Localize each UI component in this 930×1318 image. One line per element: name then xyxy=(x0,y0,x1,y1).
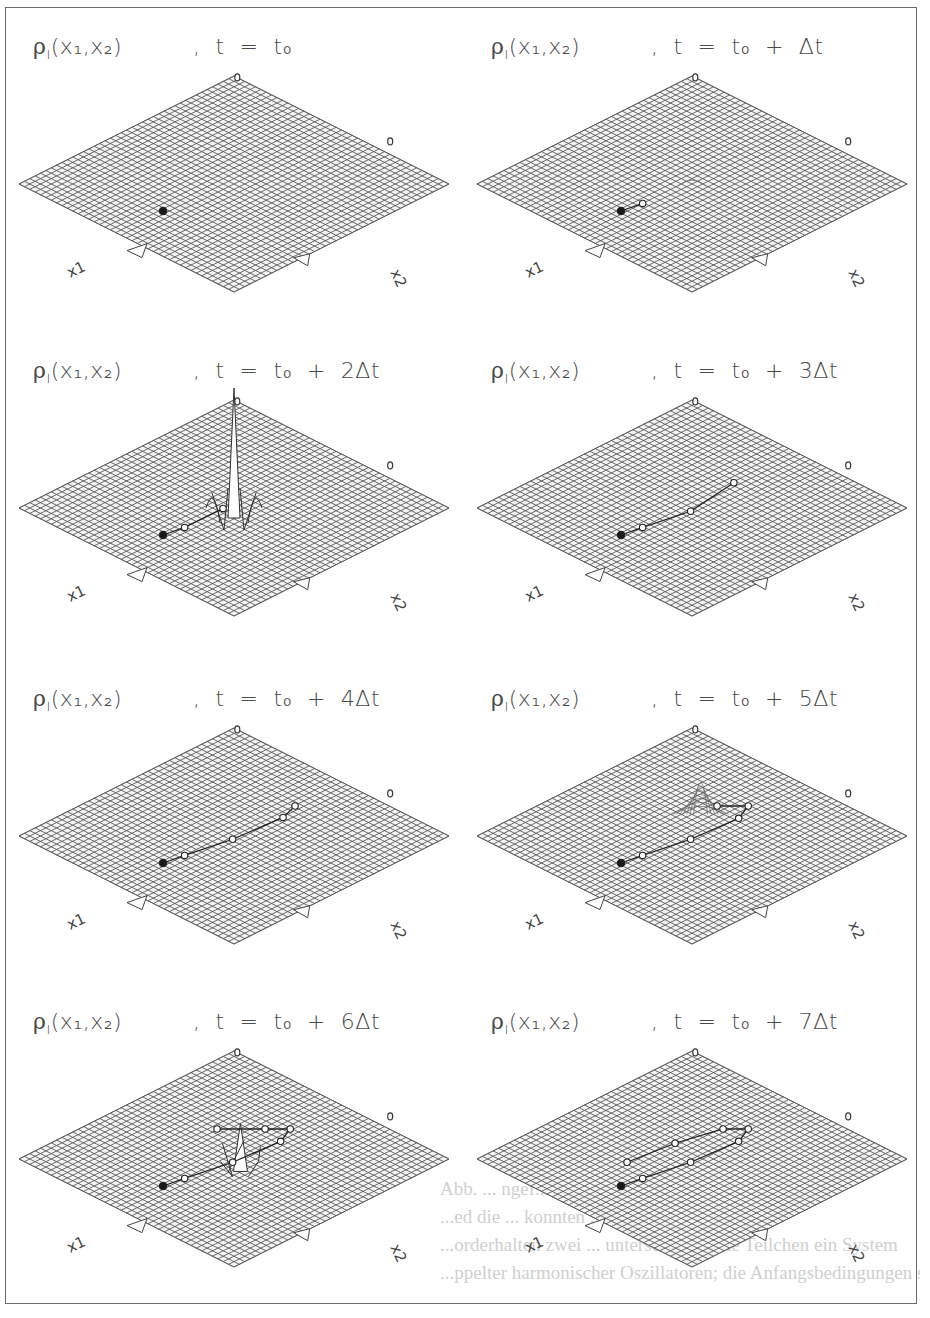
plot-panel-step-5: ρI(x₁,x₂), t = t₀ + 5Δtx1x2 xyxy=(466,662,928,984)
trajectory-point-marker xyxy=(687,1159,693,1165)
x1-axis-arrow-icon xyxy=(585,568,605,582)
trajectory-point-marker xyxy=(181,1175,187,1181)
x2-axis-label: x2 xyxy=(844,1241,868,1265)
plot-panel-step-6: ρI(x₁,x₂), t = t₀ + 6Δtx1x2 xyxy=(8,985,470,1307)
trajectory-point-marker xyxy=(745,1126,751,1132)
plot-panel-step-3: ρI(x₁,x₂), t = t₀ + 3Δtx1x2 xyxy=(466,334,928,656)
figure: Abb. ... ngef... nar... nd ... ohne... d… xyxy=(0,0,930,1318)
start-point-marker xyxy=(159,531,167,539)
start-point-marker xyxy=(617,207,625,215)
surface-plot: x1x2 xyxy=(8,985,470,1307)
trajectory-point-marker xyxy=(720,1126,726,1132)
plot-panel-step-4: ρI(x₁,x₂), t = t₀ + 4Δtx1x2 xyxy=(8,662,470,984)
plot-panel-step-7: ρI(x₁,x₂), t = t₀ + 7Δtx1x2 xyxy=(466,985,928,1307)
trajectory-point-marker xyxy=(262,1126,268,1132)
trajectory-point-marker xyxy=(735,815,741,821)
trajectory-point-marker xyxy=(639,852,645,858)
x2-axis-label: x2 xyxy=(844,590,868,614)
trajectory-point-marker xyxy=(687,508,693,514)
x1-axis-arrow-icon xyxy=(127,568,147,582)
surface-plot: x1x2 xyxy=(466,662,928,984)
x2-axis-label: x2 xyxy=(386,590,410,614)
start-point-marker xyxy=(159,1182,167,1190)
x1-axis-label: x1 xyxy=(64,910,88,934)
trajectory-point-marker xyxy=(639,524,645,530)
trajectory-point-marker xyxy=(292,803,298,809)
surface-plot: x1x2 xyxy=(8,662,470,984)
x1-axis-label: x1 xyxy=(522,258,546,282)
x1-axis-label: x1 xyxy=(522,582,546,606)
surface-plot: x1x2 xyxy=(8,334,470,656)
x2-axis-label: x2 xyxy=(386,266,410,290)
start-point-marker xyxy=(159,859,167,867)
x1-axis-label: x1 xyxy=(64,582,88,606)
x1-axis-arrow-icon xyxy=(585,1219,605,1233)
x1-axis-arrow-icon xyxy=(585,244,605,258)
wireframe-grid xyxy=(477,76,907,292)
trajectory-point-marker xyxy=(181,852,187,858)
start-point-marker xyxy=(617,531,625,539)
start-point-marker xyxy=(617,859,625,867)
trajectory-point-marker xyxy=(287,1126,293,1132)
start-point-marker xyxy=(159,207,167,215)
trajectory-point-marker xyxy=(280,814,286,820)
x1-axis-label: x1 xyxy=(64,258,88,282)
x2-axis-label: x2 xyxy=(844,918,868,942)
x1-axis-arrow-icon xyxy=(127,244,147,258)
trajectory-point-marker xyxy=(639,200,645,206)
x1-axis-label: x1 xyxy=(522,910,546,934)
wireframe-grid xyxy=(19,76,449,292)
trajectory-point-marker xyxy=(624,1159,630,1165)
plot-panel-step-0: ρI(x₁,x₂), t = t₀x1x2 xyxy=(8,10,470,332)
trajectory-point-marker xyxy=(745,803,751,809)
x1-axis-arrow-icon xyxy=(127,1219,147,1233)
x2-axis-label: x2 xyxy=(844,266,868,290)
x1-axis-label: x1 xyxy=(522,1233,546,1257)
plot-panel-step-2: ρI(x₁,x₂), t = t₀ + 2Δtx1x2 xyxy=(8,334,470,656)
trajectory-point-marker xyxy=(214,1126,220,1132)
trajectory-point-marker xyxy=(639,1175,645,1181)
trajectory-point-marker xyxy=(735,1138,741,1144)
surface-plot: x1x2 xyxy=(466,985,928,1307)
trajectory-point-marker xyxy=(714,803,720,809)
trajectory-point-marker xyxy=(181,524,187,530)
x2-axis-label: x2 xyxy=(386,1241,410,1265)
surface-plot: x1x2 xyxy=(466,10,928,332)
trajectory-point-marker xyxy=(229,1159,235,1165)
x1-axis-arrow-icon xyxy=(127,896,147,910)
trajectory-point-marker xyxy=(731,480,737,486)
x1-axis-arrow-icon xyxy=(585,896,605,910)
surface-plot: x1x2 xyxy=(8,10,470,332)
trajectory-point-marker xyxy=(687,836,693,842)
trajectory-point-marker xyxy=(229,836,235,842)
x2-axis-label: x2 xyxy=(386,918,410,942)
surface-plot: x1x2 xyxy=(466,334,928,656)
x1-axis-label: x1 xyxy=(64,1233,88,1257)
trajectory-point-marker xyxy=(277,1138,283,1144)
trajectory-point-marker xyxy=(672,1140,678,1146)
start-point-marker xyxy=(617,1182,625,1190)
trajectory-point-marker xyxy=(220,505,226,511)
plot-panel-step-1: ρI(x₁,x₂), t = t₀ + Δtx1x2 xyxy=(466,10,928,332)
